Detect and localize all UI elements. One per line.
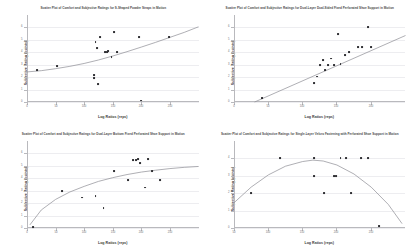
data-point-marker — [94, 77, 96, 79]
plot-area: 0123456050100150200 — [234, 15, 406, 102]
data-point-marker — [313, 82, 315, 84]
data-point-marker — [327, 64, 329, 66]
data-point-marker — [81, 197, 83, 199]
x-axis-tick-label: 200 — [139, 105, 143, 108]
data-point-marker — [168, 36, 170, 38]
data-point-marker — [116, 51, 118, 53]
data-point-marker — [127, 179, 129, 181]
gridline — [234, 102, 406, 103]
y-axis-tick-label: 1 — [21, 88, 22, 91]
data-point-marker — [351, 192, 353, 194]
plot-area: 0123456050100150200250 — [27, 141, 199, 228]
plot-area: 0123450100150200250 — [234, 141, 406, 228]
y-axis-tick-label: 0 — [21, 227, 22, 230]
data-point-marker — [144, 187, 146, 189]
y-axis-tick-label: 4 — [228, 157, 229, 160]
x-axis-label: Log Ratios (reps) — [234, 115, 406, 119]
x-axis-tick-label: 0 — [26, 105, 27, 108]
x-axis-tick-label: 150 — [300, 231, 304, 234]
y-axis-tick-label: 2 — [21, 202, 22, 205]
x-axis-label: Log Ratios (reps) — [27, 241, 199, 245]
data-point-marker — [32, 226, 34, 228]
data-point-marker — [313, 175, 315, 177]
y-axis-tick-label: 5 — [21, 38, 22, 41]
data-point-marker — [337, 33, 339, 35]
data-point-marker — [333, 175, 335, 177]
data-point-marker — [324, 69, 326, 71]
x-axis-tick-label: 50 — [54, 105, 57, 108]
data-point-marker — [111, 56, 113, 58]
chart-title: Scatter Plot of Comfort and Subjective R… — [207, 6, 413, 10]
data-point-marker — [107, 50, 109, 52]
chart-title: Scatter Plot of Comfort and Subjective R… — [0, 132, 207, 136]
data-point-marker — [99, 36, 101, 38]
x-axis-tick-label: 200 — [334, 231, 338, 234]
data-point-marker — [360, 157, 362, 159]
data-point-marker — [335, 175, 337, 177]
x-axis-tick-label: 150 — [111, 231, 115, 234]
fit-curve — [27, 15, 199, 102]
y-axis-tick-label: 1 — [21, 214, 22, 217]
data-point-marker — [113, 31, 115, 33]
y-axis-tick-label: 1 — [228, 209, 229, 212]
data-point-marker — [362, 46, 364, 48]
data-point-marker — [139, 162, 141, 164]
x-axis-label: Log Ratios (reps) — [234, 241, 406, 245]
x-axis-tick-label: 250 — [168, 231, 172, 234]
x-axis-tick-label: 100 — [300, 105, 304, 108]
chart-panel-bottom-left: Scatter Plot of Comfort and Subjective R… — [0, 126, 207, 252]
x-axis-tick-label: 100 — [82, 105, 86, 108]
y-axis-tick-label: 3 — [21, 189, 22, 192]
y-axis-tick-label: 4 — [21, 51, 22, 54]
y-axis-tick-label: 2 — [228, 192, 229, 195]
y-axis-tick-label: 1 — [228, 88, 229, 91]
y-axis-tick-label: 0 — [21, 101, 22, 104]
x-axis-tick-label: 100 — [266, 231, 270, 234]
data-point-marker — [333, 64, 335, 66]
y-axis-tick-label: 3 — [228, 174, 229, 177]
y-axis-tick-label: 4 — [228, 51, 229, 54]
data-point-marker — [367, 157, 369, 159]
data-point-marker — [140, 100, 142, 102]
data-point-marker — [137, 158, 139, 160]
y-axis-tick-label: 2 — [21, 76, 22, 79]
data-point-marker — [344, 54, 346, 56]
data-point-marker — [330, 58, 332, 60]
x-axis-tick-label: 250 — [168, 105, 172, 108]
data-point-marker — [94, 74, 96, 76]
y-axis-tick-label: 3 — [21, 63, 22, 66]
x-axis-tick-label: 250 — [368, 231, 372, 234]
data-point-marker — [323, 192, 325, 194]
data-point-marker — [316, 76, 318, 78]
chart-panel-top-left: Scatter Plot of Comfort and Subjective R… — [0, 0, 207, 126]
y-axis-tick-label: 0 — [228, 101, 229, 104]
data-point-marker — [61, 190, 63, 192]
data-point-marker — [345, 157, 347, 159]
x-axis-tick-label: 150 — [334, 105, 338, 108]
data-point-marker — [56, 65, 58, 67]
x-axis-tick-label: 50 — [54, 231, 57, 234]
data-point-marker — [313, 157, 315, 159]
data-point-marker — [319, 64, 321, 66]
y-axis-tick-label: 4 — [21, 177, 22, 180]
chart-title: Scatter Plot of Comfort and Subjective R… — [0, 6, 207, 10]
data-point-marker — [378, 225, 380, 227]
data-point-marker — [36, 69, 38, 71]
data-point-marker — [322, 59, 324, 61]
x-axis-tick-label: 200 — [139, 231, 143, 234]
data-point-marker — [95, 41, 97, 43]
y-axis-tick-label: 5 — [228, 38, 229, 41]
x-axis-tick-label: 0 — [26, 231, 27, 234]
data-point-marker — [340, 63, 342, 65]
chart-panel-bottom-right: Scatter Plot of Comfort and Subjective R… — [207, 126, 413, 252]
data-point-marker — [340, 157, 342, 159]
data-point-marker — [96, 47, 98, 49]
gridline — [234, 228, 406, 229]
y-axis-tick-label: 6 — [21, 26, 22, 29]
fit-curve — [27, 141, 199, 228]
data-point-marker — [97, 83, 99, 85]
y-axis-tick-label: 5 — [21, 164, 22, 167]
x-axis-tick-label: 150 — [111, 105, 115, 108]
x-axis-tick-label: 50 — [232, 231, 235, 234]
x-axis-tick-label: 200 — [368, 105, 372, 108]
